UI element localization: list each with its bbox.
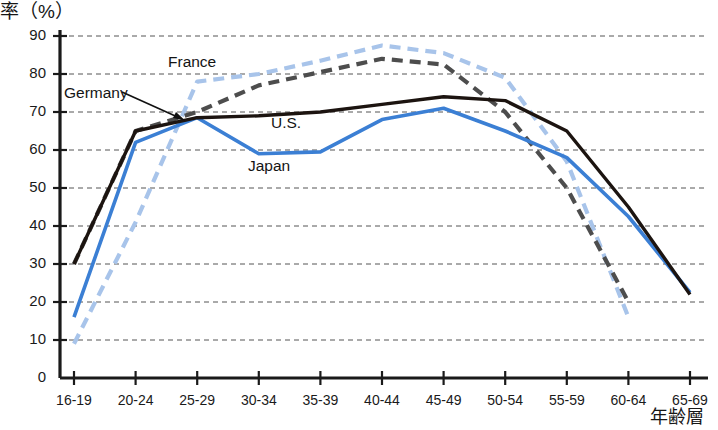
line-chart: 率（%） 年齢層 9080706050403020100 16-1920-242… — [0, 0, 718, 430]
x-tick-label: 16-19 — [39, 392, 109, 408]
x-tick-label: 40-44 — [347, 392, 417, 408]
x-tick-label: 65-69 — [655, 392, 718, 408]
x-tick-label: 50-54 — [470, 392, 540, 408]
series-label-france: France — [168, 53, 216, 71]
series-label-japan: Japan — [248, 157, 290, 175]
germany-annotation-arrow — [122, 92, 182, 119]
x-tick-label: 45-49 — [409, 392, 479, 408]
series-line-japan — [74, 108, 690, 317]
y-tick-label: 90 — [4, 26, 46, 43]
series-line-us — [74, 97, 690, 295]
series-label-germany: Germany — [64, 84, 128, 102]
y-tick-label: 60 — [4, 140, 46, 157]
series-line-germany — [74, 59, 628, 302]
series-line-france — [74, 46, 628, 344]
x-tick-label: 30-34 — [224, 392, 294, 408]
y-tick-label: 10 — [4, 330, 46, 347]
x-tick-label: 20-24 — [101, 392, 171, 408]
x-tick-label: 35-39 — [285, 392, 355, 408]
x-tick-label: 60-64 — [593, 392, 663, 408]
y-tick-label: 20 — [4, 292, 46, 309]
y-tick-label: 40 — [4, 216, 46, 233]
x-tick-label: 55-59 — [532, 392, 602, 408]
x-tick-label: 25-29 — [162, 392, 232, 408]
y-tick-label: 30 — [4, 254, 46, 271]
plot-area — [0, 0, 718, 430]
y-tick-label: 0 — [4, 368, 46, 385]
y-tick-label: 80 — [4, 64, 46, 81]
series-label-us: U.S. — [271, 114, 301, 132]
y-tick-label: 70 — [4, 102, 46, 119]
y-tick-label: 50 — [4, 178, 46, 195]
